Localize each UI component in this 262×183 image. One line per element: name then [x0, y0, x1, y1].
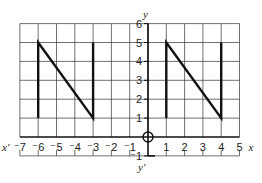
x-tick-label: 1	[163, 141, 169, 153]
y-tick-label: 5	[136, 37, 142, 49]
x-tick-label: ⁻4	[69, 141, 81, 153]
x-prime-label: x'	[1, 141, 10, 153]
y-axis-label: y	[142, 8, 148, 20]
x-tick-label: ⁻7	[14, 141, 26, 153]
grid-lines	[20, 24, 240, 156]
y-tick-label: 2	[136, 93, 142, 105]
x-tick-label: ⁻3	[87, 141, 99, 153]
y-prime-label: y'	[137, 161, 146, 173]
y-tick-label: 6	[136, 18, 142, 30]
y-tick-label: 3	[136, 74, 142, 86]
x-tick-label: ⁻2	[105, 141, 117, 153]
x-tick-label: 5	[236, 141, 242, 153]
y-tick-label: 4	[136, 55, 142, 67]
x-tick-label: 2	[182, 141, 188, 153]
x-axis-label: x	[248, 141, 254, 153]
y-tick-label: 1	[136, 112, 142, 124]
x-tick-label: ⁻5	[50, 141, 62, 153]
x-tick-label: ⁻6	[32, 141, 44, 153]
x-tick-label: 4	[218, 141, 224, 153]
x-tick-label: 3	[200, 141, 206, 153]
coordinate-grid-diagram: ⁻7⁻6⁻5⁻4⁻3⁻2⁻112345654321⁻1xx'yy'	[0, 0, 262, 183]
